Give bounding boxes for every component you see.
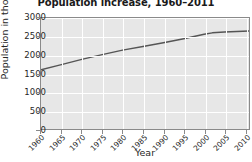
y-tick-mark	[36, 92, 40, 93]
y-tick-label: 2500	[16, 31, 46, 41]
gridline-horizontal	[41, 56, 249, 57]
gridline-vertical	[62, 18, 63, 129]
gridline-vertical	[82, 18, 83, 129]
y-tick-label: 3000	[16, 12, 46, 22]
gridline-vertical	[144, 18, 145, 129]
y-tick-mark	[36, 17, 40, 18]
y-tick-label: 1000	[16, 87, 46, 97]
y-axis-label: Population in thousands	[0, 0, 11, 80]
y-tick-label: 0	[16, 125, 46, 135]
plot-area	[40, 17, 250, 130]
chart-title: Population increase, 1960–2011	[0, 0, 252, 8]
y-tick-label: 1500	[16, 69, 46, 79]
gridline-vertical	[226, 18, 227, 129]
gridline-vertical	[123, 18, 124, 129]
y-tick-mark	[36, 55, 40, 56]
y-tick-label: 2000	[16, 50, 46, 60]
gridline-vertical	[247, 18, 248, 129]
gridline-vertical	[103, 18, 104, 129]
chart-figure: Population increase, 1960–2011 Populatio…	[0, 0, 252, 162]
gridline-horizontal	[41, 93, 249, 94]
y-tick-mark	[36, 74, 40, 75]
gridline-horizontal	[41, 37, 249, 38]
y-tick-mark	[36, 111, 40, 112]
y-tick-label: 500	[16, 106, 46, 116]
gridline-vertical	[206, 18, 207, 129]
gridline-vertical	[185, 18, 186, 129]
y-tick-mark	[36, 36, 40, 37]
gridline-vertical	[165, 18, 166, 129]
gridline-horizontal	[41, 18, 249, 19]
gridline-horizontal	[41, 112, 249, 113]
gridline-horizontal	[41, 75, 249, 76]
